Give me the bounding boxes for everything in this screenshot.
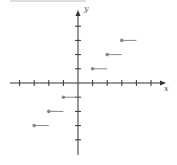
closed-point	[91, 67, 95, 71]
closed-point	[62, 95, 66, 99]
closed-point	[32, 124, 36, 128]
closed-point	[47, 110, 51, 114]
x-axis-label: x	[164, 84, 169, 93]
closed-point	[120, 39, 124, 43]
step-function-plot	[0, 0, 177, 165]
y-axis-label: y	[84, 4, 89, 13]
y-axis-arrow-icon	[76, 10, 81, 16]
closed-point	[105, 53, 109, 57]
